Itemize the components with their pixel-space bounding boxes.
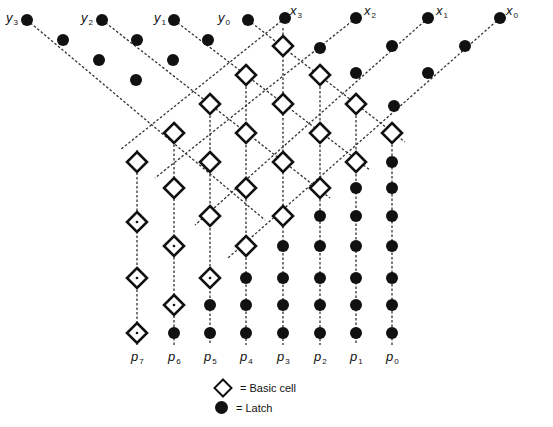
array-nodes — [21, 12, 506, 343]
latch-icon — [350, 327, 362, 339]
signal-name: x — [290, 3, 297, 18]
latch-icon — [277, 327, 289, 339]
basic-cell-icon — [273, 36, 293, 56]
signal-name: p — [240, 349, 247, 364]
latch-icon — [314, 240, 326, 252]
basic-cell-icon — [273, 206, 293, 226]
dashed-interconnect-lines — [27, 18, 500, 345]
signal-index: 2 — [322, 357, 326, 366]
latch-icon — [386, 182, 398, 194]
basic-cell-icon — [310, 123, 330, 143]
latch-icon — [240, 299, 252, 311]
latch-icon — [240, 272, 252, 284]
cell-center-mark-icon — [173, 304, 176, 307]
latch-icon — [388, 100, 400, 112]
latch-icon — [350, 240, 362, 252]
basic-cell-icon — [236, 178, 256, 198]
signal-index: 3 — [285, 357, 289, 366]
cell-center-mark-icon — [209, 277, 212, 280]
basic-cell-icon — [200, 206, 220, 226]
input-label-y2: y2 — [81, 11, 93, 27]
latch-icon — [350, 299, 362, 311]
input-label-x1: x1 — [436, 4, 448, 20]
output-label-p3: p3 — [277, 350, 290, 366]
basic-cell-icon — [200, 94, 220, 114]
signal-index: 0 — [226, 18, 230, 27]
basic-cell-diamond-icon — [213, 378, 233, 398]
output-label-p4: p4 — [240, 350, 253, 366]
signal-index: 7 — [139, 357, 143, 366]
dashed-wire — [27, 20, 265, 220]
signal-name: p — [277, 349, 284, 364]
basic-cell-icon — [346, 94, 366, 114]
latch-icon — [386, 327, 398, 339]
signal-index: 2 — [372, 11, 376, 20]
signal-name: x — [436, 3, 443, 18]
latch-icon — [314, 42, 326, 54]
basic-cell-icon — [164, 123, 184, 143]
signal-index: 1 — [162, 18, 166, 27]
basic-cell-icon — [127, 152, 147, 172]
signal-name: y — [218, 10, 225, 25]
latch-icon — [21, 14, 33, 26]
latch-icon — [494, 12, 506, 24]
latch-icon — [93, 54, 105, 66]
signal-name: p — [131, 349, 138, 364]
latch-icon — [277, 272, 289, 284]
legend-latch-label: = Latch — [236, 402, 272, 414]
input-label-x0: x0 — [506, 4, 518, 20]
legend-latch: = Latch — [213, 401, 272, 414]
latch-icon — [204, 327, 216, 339]
basic-cell-icon — [273, 94, 293, 114]
latch-icon — [422, 12, 434, 24]
latch-icon — [277, 299, 289, 311]
signal-index: 3 — [298, 11, 302, 20]
signal-index: 0 — [394, 357, 398, 366]
signal-name: p — [386, 349, 393, 364]
signal-name: p — [204, 349, 211, 364]
latch-icon — [386, 240, 398, 252]
latch-icon — [422, 67, 434, 79]
latch-icon — [386, 156, 398, 168]
input-label-y3: y3 — [6, 11, 18, 27]
output-label-p1: p1 — [350, 350, 363, 366]
latch-icon — [386, 299, 398, 311]
latch-icon — [350, 182, 362, 194]
dashed-wire — [248, 20, 405, 142]
cell-center-mark-icon — [136, 221, 139, 224]
output-label-p2: p2 — [314, 350, 327, 366]
legend-basic-cell-label: = Basic cell — [240, 382, 296, 394]
latch-icon — [242, 14, 254, 26]
latch-icon — [314, 327, 326, 339]
latch-icon — [202, 34, 214, 46]
signal-name: p — [350, 349, 357, 364]
signal-index: 0 — [514, 11, 518, 20]
signal-index: 2 — [89, 18, 93, 27]
cell-center-mark-icon — [136, 332, 139, 335]
cell-center-mark-icon — [136, 277, 139, 280]
latch-icon — [57, 34, 69, 46]
latch-icon — [240, 327, 252, 339]
signal-name: y — [6, 10, 13, 25]
latch-icon — [386, 210, 398, 222]
latch-icon — [350, 12, 362, 24]
cell-center-mark-icon — [173, 245, 176, 248]
signal-index: 5 — [212, 357, 216, 366]
basic-cell-icon — [236, 236, 256, 256]
latch-icon — [277, 240, 289, 252]
latch-icon — [314, 210, 326, 222]
output-label-p7: p7 — [131, 350, 144, 366]
input-label-y1: y1 — [154, 11, 166, 27]
signal-name: x — [506, 3, 513, 18]
output-label-p6: p6 — [168, 350, 181, 366]
basic-cell-icon — [346, 152, 366, 172]
latch-icon — [386, 272, 398, 284]
latch-icon — [459, 40, 471, 52]
latch-icon — [350, 210, 362, 222]
signal-index: 3 — [14, 18, 18, 27]
basic-cell-icon — [200, 152, 220, 172]
output-label-p5: p5 — [204, 350, 217, 366]
basic-cell-icon — [273, 152, 293, 172]
input-label-x3: x3 — [290, 4, 302, 20]
latch-icon — [314, 299, 326, 311]
